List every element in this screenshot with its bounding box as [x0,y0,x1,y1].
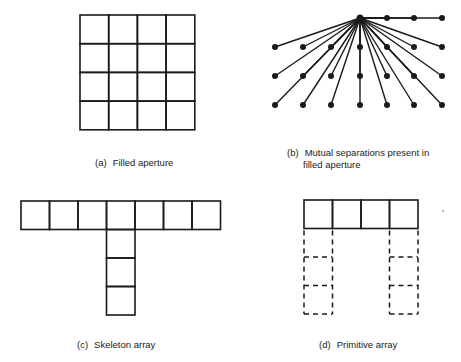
aperture-cell [166,15,195,44]
separation-point [439,15,445,21]
figure-canvas [0,0,461,362]
separation-point [300,44,306,50]
mutual-separations-diagram [272,15,445,109]
skeleton-cell [192,201,221,230]
separation-point [357,73,363,79]
separation-point [439,44,445,50]
primitive-array [304,200,418,314]
separation-vector [360,18,414,105]
separation-point [357,44,363,50]
skeleton-stem-cell [107,230,136,259]
separation-point [328,73,334,79]
caption-c: (c)Skeleton array [77,339,155,351]
aperture-cell [137,101,166,130]
caption-c-tag: (c) [77,339,88,350]
separation-point [411,44,417,50]
skeleton-cell [50,201,79,230]
caption-b-line1: Mutual separations present in [305,147,430,158]
aperture-cell [166,101,195,130]
caption-b-line2: filled aperture [287,159,429,171]
separation-point [384,73,390,79]
separation-point [328,44,334,50]
caption-b-tag: (b) [287,147,299,158]
aperture-cell [80,72,109,101]
filled-aperture-grid [80,15,195,130]
skeleton-cell [78,201,107,230]
aperture-cell [80,101,109,130]
separation-point [384,15,390,21]
caption-d-text: Primitive array [337,339,398,350]
separation-point [272,102,278,108]
scan-speck [442,210,444,212]
separation-vector [275,18,360,105]
separation-point [411,15,417,21]
separation-point [411,73,417,79]
separation-point [328,102,334,108]
aperture-cell [137,15,166,44]
separation-vector [275,18,360,76]
separation-point [439,73,445,79]
separation-vector [303,18,360,105]
separation-point [272,73,278,79]
skeleton-cell [135,201,164,230]
skeleton-stem-cell [107,287,136,316]
aperture-cell [109,15,138,44]
skeleton-stem-cell [107,258,136,287]
aperture-cell [80,15,109,44]
caption-a-tag: (a) [95,157,107,168]
caption-d: (d)Primitive array [319,339,397,351]
separation-point [384,44,390,50]
separation-point [384,102,390,108]
separation-point [300,73,306,79]
primitive-cell [361,200,390,229]
aperture-cell [166,44,195,73]
separation-point [300,102,306,108]
caption-c-text: Skeleton array [94,339,155,350]
skeleton-cell [107,201,136,230]
skeleton-cell [164,201,193,230]
aperture-cell [137,44,166,73]
separation-vector [360,18,442,105]
skeleton-array [21,201,221,315]
caption-a-text: Filled aperture [113,157,174,168]
skeleton-cell [21,201,50,230]
separation-point [439,102,445,108]
aperture-cell [80,44,109,73]
primitive-cell [304,200,333,229]
origin-point [357,15,364,22]
aperture-cell [166,72,195,101]
separation-point [357,102,363,108]
separation-point [272,44,278,50]
primitive-cell [390,200,419,229]
primitive-cell [333,200,362,229]
aperture-cell [109,44,138,73]
separation-vector [360,18,442,47]
caption-b: (b)Mutual separations present in filled … [287,147,429,171]
separation-point [411,102,417,108]
caption-d-tag: (d) [319,339,331,350]
aperture-cell [109,101,138,130]
aperture-cell [137,72,166,101]
caption-a: (a)Filled aperture [95,157,173,169]
separation-vector [360,18,442,76]
aperture-cell [109,72,138,101]
